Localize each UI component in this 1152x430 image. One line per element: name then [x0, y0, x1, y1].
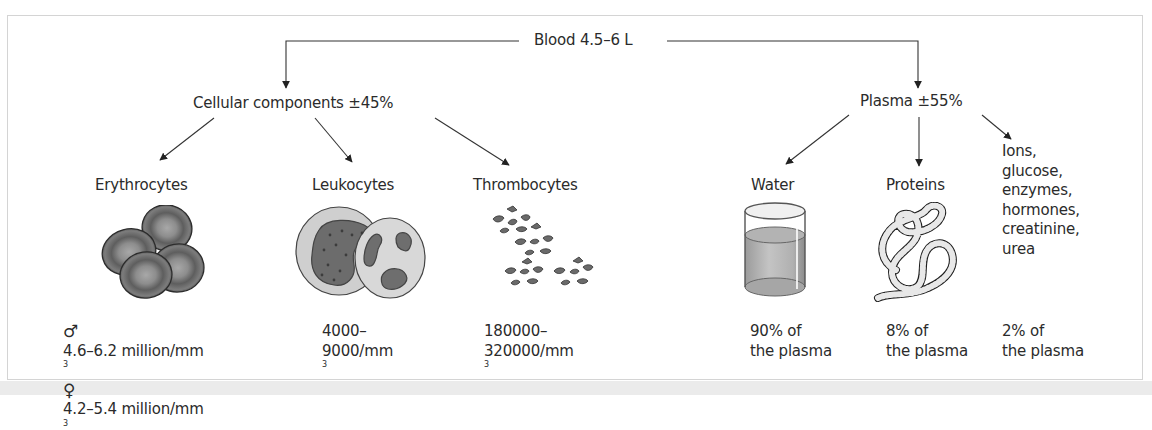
node-label-thrombocytes: Thrombocytes — [473, 176, 578, 195]
erythrocytes-male-value: ♂4.6–6.2 million/mm3 — [63, 322, 204, 381]
other-solutes-values: 2% of the plasma — [1002, 322, 1084, 361]
erythrocytes-values: ♂4.6–6.2 million/mm3 ♀4.2–5.4 million/mm… — [63, 322, 204, 430]
value-line: 2% of — [1002, 322, 1084, 342]
erythrocytes-female-value: ♀4.2–5.4 million/mm3 — [63, 381, 204, 430]
female-symbol-icon: ♀ — [63, 381, 83, 401]
thrombocytes-illustration — [484, 205, 594, 300]
water-values: 90% of the plasma — [750, 322, 832, 361]
branch-label-plasma: Plasma ±55% — [860, 92, 963, 111]
value-line: 9000/mm3 — [322, 342, 393, 381]
branch-label-cellular-components: Cellular components ±45% — [193, 94, 393, 113]
solute-line: Ions, — [1002, 142, 1080, 162]
male-symbol-icon: ♂ — [63, 322, 83, 342]
solute-line: creatinine, — [1002, 220, 1080, 240]
value-line: the plasma — [750, 342, 832, 362]
value-line: 8% of — [886, 322, 968, 342]
value-line: 4000– — [322, 322, 393, 342]
erythrocytes-illustration — [100, 205, 215, 300]
node-label-proteins: Proteins — [886, 176, 945, 195]
root-label-blood: Blood 4.5–6 L — [534, 31, 633, 50]
node-label-other-solutes: Ions, glucose, enzymes, hormones, creati… — [1002, 142, 1080, 259]
solute-line: enzymes, — [1002, 181, 1080, 201]
water-glass-illustration — [741, 201, 811, 301]
node-label-leukocytes: Leukocytes — [312, 176, 394, 195]
thrombocytes-values: 180000– 320000/mm3 — [484, 322, 574, 381]
solute-line: urea — [1002, 240, 1080, 260]
value-line: the plasma — [886, 342, 968, 362]
value-line: 90% of — [750, 322, 832, 342]
solute-line: glucose, — [1002, 162, 1080, 182]
node-label-erythrocytes: Erythrocytes — [95, 176, 188, 195]
node-label-water: Water — [751, 176, 794, 195]
proteins-values: 8% of the plasma — [886, 322, 968, 361]
value-line: the plasma — [1002, 342, 1084, 362]
leukocytes-values: 4000– 9000/mm3 — [322, 322, 393, 381]
leukocytes-illustration — [292, 205, 427, 300]
value-line: 320000/mm3 — [484, 342, 574, 381]
value-line: 180000– — [484, 322, 574, 342]
solute-line: hormones, — [1002, 201, 1080, 221]
protein-coil-illustration — [870, 202, 970, 302]
